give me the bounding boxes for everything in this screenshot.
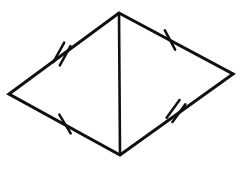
vertical-diagonal xyxy=(119,13,120,155)
kite-diagram-svg xyxy=(0,0,243,182)
geometry-figure xyxy=(0,0,243,182)
